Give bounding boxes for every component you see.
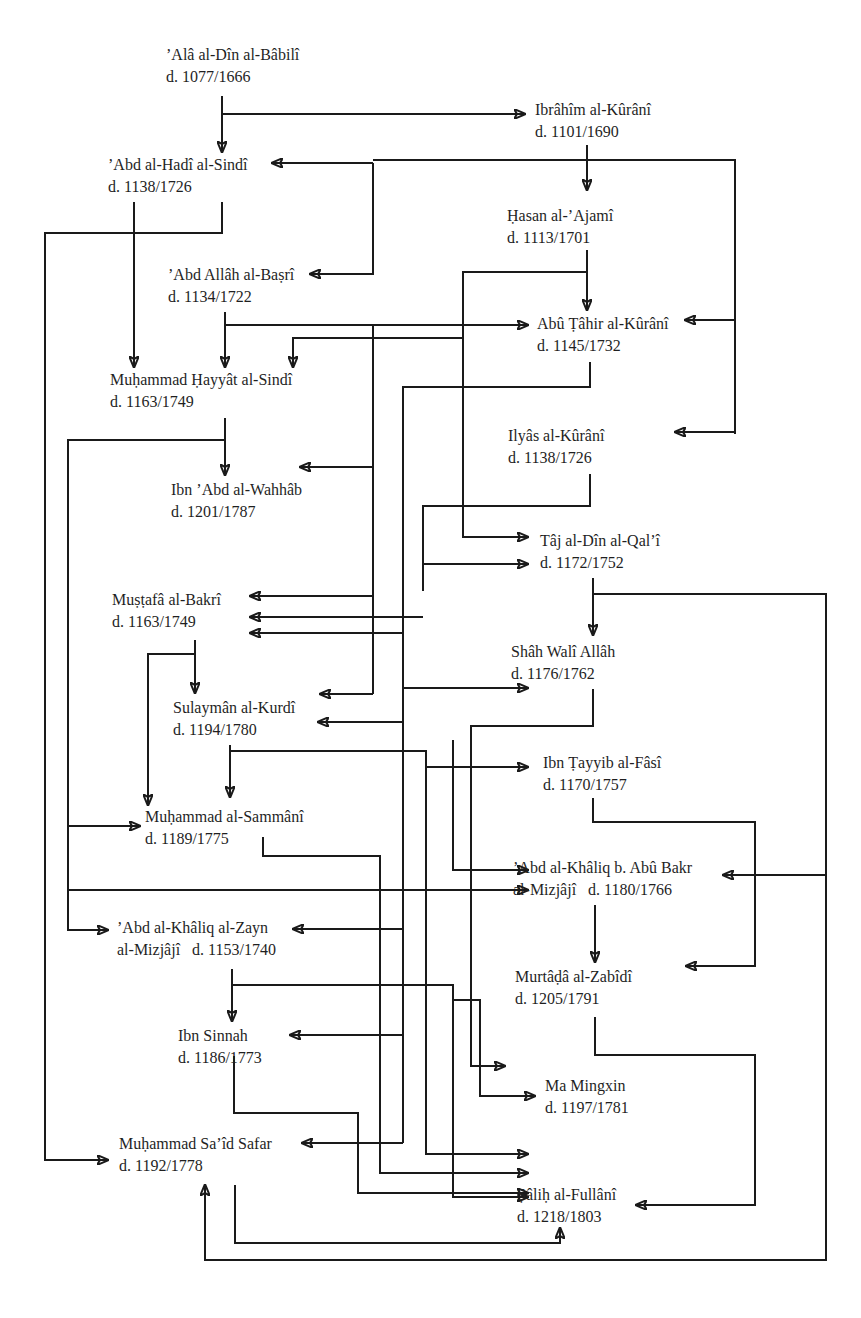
node-sammani: Muḥammad al-Sammânî d. 1189/1775 [145, 806, 304, 850]
node-abd-allah-basri: ’Abd Allâh al-Baṣrî d. 1134/1722 [168, 264, 294, 308]
transmission-diagram: ’Alâ al-Dîn al-Bâbilî d. 1077/1666 Ibrâh… [0, 0, 861, 1318]
node-ibn-tayyib-fasi: Ibn Ṭayyib al-Fâsî d. 1170/1757 [543, 752, 661, 796]
node-name: Muḥammad Ḥayyât al-Sindî [110, 369, 292, 391]
node-dates: d. 1186/1773 [178, 1047, 262, 1069]
node-name: Ilyâs al-Kûrânî [508, 425, 604, 447]
node-khaliq-zayn: ’Abd al-Khâliq al-Zayn al-Mizjâjî d. 115… [117, 917, 276, 961]
node-dates: d. 1113/1701 [507, 227, 613, 249]
node-ibn-abd-wahhab: Ibn ’Abd al-Wahhâb d. 1201/1787 [171, 479, 302, 523]
node-dates: d. 1170/1757 [543, 774, 661, 796]
node-ilyas-kurani: Ilyâs al-Kûrânî d. 1138/1726 [508, 425, 604, 469]
node-dates: d. 1172/1752 [540, 552, 660, 574]
node-dates: d. 1145/1732 [537, 335, 669, 357]
node-dates: d. 1189/1775 [145, 828, 304, 850]
node-dates: d. 1101/1690 [535, 121, 651, 143]
node-name: Abû Ṭâhir al-Kûrânî [537, 313, 669, 335]
node-abd-hadi-sindi: ’Abd al-Hadî al-Sindî d. 1138/1726 [108, 154, 248, 198]
node-name: Ibn Sinnah [178, 1025, 262, 1047]
node-name: Muḥammad Sa’îd Safar [119, 1133, 272, 1155]
node-salih-fullani: Ṣâliḥ al-Fullânî d. 1218/1803 [517, 1184, 616, 1228]
node-name: Ḥasan al-’Ajamî [507, 205, 613, 227]
node-name: Ibrâhîm al-Kûrânî [535, 99, 651, 121]
node-name: Ibn Ṭayyib al-Fâsî [543, 752, 661, 774]
node-dates: d. 1134/1722 [168, 286, 294, 308]
node-name: Ma Mingxin [545, 1075, 629, 1097]
node-dates: d. 1176/1762 [511, 663, 615, 685]
node-name: Ibn ’Abd al-Wahhâb [171, 479, 302, 501]
node-said-safar: Muḥammad Sa’îd Safar d. 1192/1778 [119, 1133, 272, 1177]
node-shah-wali-allah: Shâh Walî Allâh d. 1176/1762 [511, 641, 615, 685]
node-mustafa-bakri: Muṣṭafâ al-Bakrî d. 1163/1749 [112, 589, 221, 633]
node-dates: d. 1077/1666 [166, 66, 299, 88]
node-dates: d. 1218/1803 [517, 1206, 616, 1228]
node-name: Muṣṭafâ al-Bakrî [112, 589, 221, 611]
node-name: Ṣâliḥ al-Fullânî [517, 1184, 616, 1206]
node-name: Muḥammad al-Sammânî [145, 806, 304, 828]
node-abu-tahir-kurani: Abû Ṭâhir al-Kûrânî d. 1145/1732 [537, 313, 669, 357]
node-name: ’Abd al-Khâliq al-Zayn [117, 917, 276, 939]
node-name: ’Abd Allâh al-Baṣrî [168, 264, 294, 286]
node-dates: d. 1180/1766 [588, 881, 672, 898]
node-ma-mingxin: Ma Mingxin d. 1197/1781 [545, 1075, 629, 1119]
node-name-line2: al-Mizjâjî [117, 941, 180, 958]
node-name: Sulaymân al-Kurdî [173, 697, 295, 719]
node-name: ’Abd al-Hadî al-Sindî [108, 154, 248, 176]
node-dates: d. 1192/1778 [119, 1155, 272, 1177]
node-taj-qali: Tâj al-Dîn al-Qal’î d. 1172/1752 [540, 530, 660, 574]
node-dates: d. 1163/1749 [110, 391, 292, 413]
node-name: Tâj al-Dîn al-Qal’î [540, 530, 660, 552]
node-babili: ’Alâ al-Dîn al-Bâbilî d. 1077/1666 [166, 44, 299, 88]
node-dates: d. 1163/1749 [112, 611, 221, 633]
node-hasan-ajami: Ḥasan al-’Ajamî d. 1113/1701 [507, 205, 613, 249]
node-dates: d. 1138/1726 [508, 447, 604, 469]
node-name: ’Abd al-Khâliq b. Abû Bakr [513, 857, 692, 879]
node-dates: d. 1205/1791 [515, 988, 632, 1010]
node-khaliq-abu-bakr: ’Abd al-Khâliq b. Abû Bakr al-Mizjâjî d.… [513, 857, 692, 901]
node-dates: d. 1153/1740 [192, 941, 276, 958]
node-name: Murtâḍâ al-Zabîdî [515, 966, 632, 988]
node-name-line2: al-Mizjâjî [513, 881, 576, 898]
node-dates: d. 1138/1726 [108, 176, 248, 198]
node-sulayman-kurdi: Sulaymân al-Kurdî d. 1194/1780 [173, 697, 295, 741]
node-dates: d. 1197/1781 [545, 1097, 629, 1119]
node-hayyat-sindi: Muḥammad Ḥayyât al-Sindî d. 1163/1749 [110, 369, 292, 413]
node-dates: d. 1201/1787 [171, 501, 302, 523]
node-ibrahim-kurani: Ibrâhîm al-Kûrânî d. 1101/1690 [535, 99, 651, 143]
node-name: ’Alâ al-Dîn al-Bâbilî [166, 44, 299, 66]
node-murtada-zabidi: Murtâḍâ al-Zabîdî d. 1205/1791 [515, 966, 632, 1010]
node-dates: d. 1194/1780 [173, 719, 295, 741]
node-name: Shâh Walî Allâh [511, 641, 615, 663]
node-ibn-sinnah: Ibn Sinnah d. 1186/1773 [178, 1025, 262, 1069]
